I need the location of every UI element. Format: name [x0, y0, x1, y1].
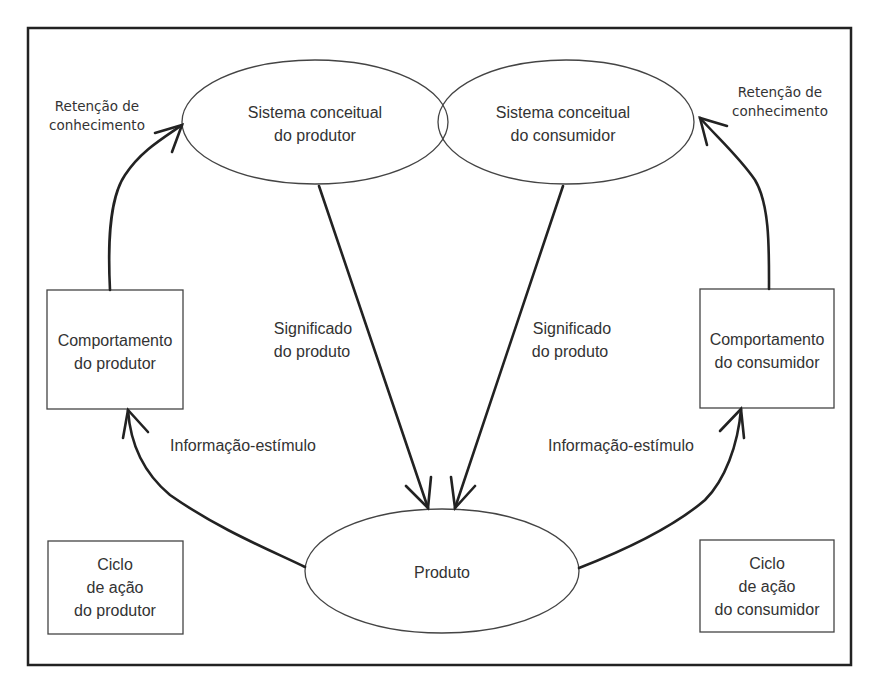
retention-arrow-left — [109, 125, 182, 290]
producer-cycle-label-line3: do produtor — [74, 602, 157, 619]
producer-concept-label-line1: Sistema conceitual — [248, 104, 382, 121]
producer-behavior-label-line2: do produtor — [74, 355, 157, 372]
consumer-behavior-label-line1: Comportamento — [710, 331, 825, 348]
diagram-canvas: Sistema conceitual do produtor Sistema c… — [0, 0, 879, 691]
stimulus-label-right: Informação-estímulo — [548, 437, 694, 454]
consumer-behavior-label-line2: do consumidor — [715, 354, 821, 371]
producer-behavior-box — [47, 290, 183, 409]
producer-cycle-label-line2: de ação — [87, 579, 144, 596]
consumer-cycle-label-line2: de ação — [739, 578, 796, 595]
producer-concept-label-line2: do produtor — [274, 127, 357, 144]
consumer-concept-label-line1: Sistema conceitual — [496, 104, 630, 121]
stimulus-label-left: Informação-estímulo — [170, 437, 316, 454]
producer-behavior-label-line1: Comportamento — [58, 332, 173, 349]
retention-arrow-right — [700, 118, 769, 289]
meaning-label-right-line2: do produto — [532, 343, 609, 360]
retention-label-right-line2: conhecimento — [732, 103, 828, 119]
producer-cycle-label-line1: Ciclo — [97, 556, 133, 573]
consumer-concept-label-line2: do consumidor — [511, 127, 617, 144]
retention-label-right-line1: Retenção de — [738, 84, 822, 100]
consumer-cycle-label-line3: do consumidor — [715, 601, 821, 618]
product-label: Produto — [414, 564, 470, 581]
meaning-label-right-line1: Significado — [533, 320, 611, 337]
consumer-concept-ellipse — [438, 60, 694, 184]
consumer-behavior-box — [700, 289, 834, 408]
producer-concept-ellipse — [182, 60, 448, 184]
retention-label-left-line2: conhecimento — [49, 117, 145, 133]
retention-label-left-line1: Retenção de — [55, 98, 139, 114]
meaning-label-left-line1: Significado — [274, 320, 352, 337]
meaning-label-left-line2: do produto — [274, 343, 351, 360]
consumer-cycle-label-line1: Ciclo — [749, 555, 785, 572]
